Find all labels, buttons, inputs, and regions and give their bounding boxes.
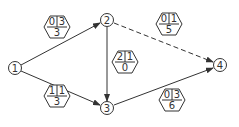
svg-text:5: 5 <box>166 24 172 35</box>
svg-text:1: 1 <box>59 85 65 96</box>
edge-label-3-4: 0 3 6 <box>159 89 185 111</box>
edge-label-1-3: 1 1 3 <box>44 85 70 107</box>
network-diagram: 1 2 3 4 0 3 3 0 1 5 2 1 0 1 <box>0 0 239 127</box>
node-1: 1 <box>9 62 22 75</box>
svg-text:3: 3 <box>54 96 60 107</box>
svg-text:1: 1 <box>49 85 55 96</box>
node-2: 2 <box>101 14 114 27</box>
node-1-label: 1 <box>12 63 18 74</box>
node-3: 3 <box>101 102 114 115</box>
edge-label-1-2: 0 3 3 <box>44 16 70 38</box>
svg-text:3: 3 <box>174 89 180 100</box>
node-3-label: 3 <box>104 103 110 114</box>
svg-text:1: 1 <box>127 51 133 62</box>
svg-text:3: 3 <box>59 16 65 27</box>
svg-text:0: 0 <box>122 62 128 73</box>
svg-text:1: 1 <box>171 13 177 24</box>
svg-text:0: 0 <box>161 13 167 24</box>
node-2-label: 2 <box>104 15 110 26</box>
svg-text:2: 2 <box>117 51 123 62</box>
svg-text:3: 3 <box>54 27 60 38</box>
node-4-label: 4 <box>217 60 223 71</box>
edge-label-2-3: 2 1 0 <box>112 51 138 73</box>
svg-text:0: 0 <box>49 16 55 27</box>
node-4: 4 <box>214 59 227 72</box>
svg-text:0: 0 <box>164 89 170 100</box>
svg-text:6: 6 <box>169 100 175 111</box>
edge-label-2-4: 0 1 5 <box>156 13 182 35</box>
